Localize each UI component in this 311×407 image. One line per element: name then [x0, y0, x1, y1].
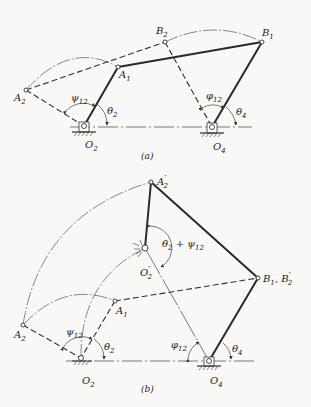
joint-b1-a: [260, 40, 264, 44]
label-theta2-a: θ2: [107, 105, 118, 119]
joint-a2prime-b: [149, 180, 153, 184]
theta2-arc-b: [94, 339, 104, 359]
inversion-arc-outer-b: [23, 182, 151, 325]
inverted-coupler-link-b: [151, 182, 258, 278]
theta2-arc-a: [97, 104, 107, 125]
coupler-link-a: [118, 42, 262, 67]
phi12-arc-b: [188, 342, 199, 359]
label-o2-a: O2: [85, 139, 98, 153]
label-psi12-a: ψ12: [71, 92, 88, 106]
label-o4-b: O4: [210, 375, 223, 389]
crank-arc-b: [23, 294, 115, 325]
four-bar-linkage-diagram: A2 A1 B2 B1 O2 O4 ψ12 θ2 φ12 θ4 (a): [0, 0, 311, 407]
joint-b1-b2prime-b: [256, 276, 260, 280]
label-a2-a: A2: [13, 92, 26, 106]
theta4-arc-a: [226, 107, 236, 125]
joint-a1-b: [113, 299, 117, 303]
ground-pivot-o4-a: [200, 123, 224, 137]
theta4-arc-b: [223, 343, 231, 359]
part-a: A2 A1 B2 B1 O2 O4 ψ12 θ2 φ12 θ4 (a): [13, 25, 274, 161]
phi12-arc-a: [202, 105, 224, 108]
coupler-pos2-a: [26, 42, 165, 90]
label-a1-b: A1: [115, 305, 128, 319]
label-o4-a: O4: [213, 141, 226, 155]
ground-pivot-o2-a: [72, 122, 96, 136]
label-o2prime-b: O′2: [140, 264, 152, 281]
inverted-crank-link-b: [145, 182, 151, 248]
joint-b2-a: [163, 40, 167, 44]
rocker-arc-a: [165, 30, 262, 42]
label-theta2-b: θ2: [104, 341, 115, 355]
joint-a2-a: [24, 88, 28, 92]
label-psi12-b: ψ12: [66, 326, 83, 340]
coupler-pos1-b: [115, 278, 258, 301]
part-b: A′2 O′2 B1, B′2 A1 A2 O2 O4 θ2 + ψ12 ψ12…: [13, 173, 293, 394]
label-a1-a: A1: [118, 69, 131, 83]
ground-pivot-o2-b: [72, 356, 92, 366]
joint-a2-b: [21, 323, 25, 327]
label-b1-b2prime-b: B1, B′2: [262, 270, 293, 287]
ground-pivot-o4-b: [197, 357, 221, 370]
label-a2-b: A2: [13, 329, 26, 343]
label-theta4-b: θ4: [232, 343, 243, 357]
label-theta2-plus-psi12-b: θ2 + ψ12: [162, 238, 205, 252]
label-phi12-b: φ12: [171, 339, 187, 353]
label-theta4-a: θ4: [236, 106, 247, 120]
label-phi12-a: φ12: [206, 90, 222, 104]
caption-b: (b): [141, 384, 154, 394]
label-b1-a: B1: [261, 27, 274, 41]
label-o2-b: O2: [82, 375, 95, 389]
label-b2-a: B2: [155, 25, 168, 39]
caption-a: (a): [141, 151, 154, 161]
